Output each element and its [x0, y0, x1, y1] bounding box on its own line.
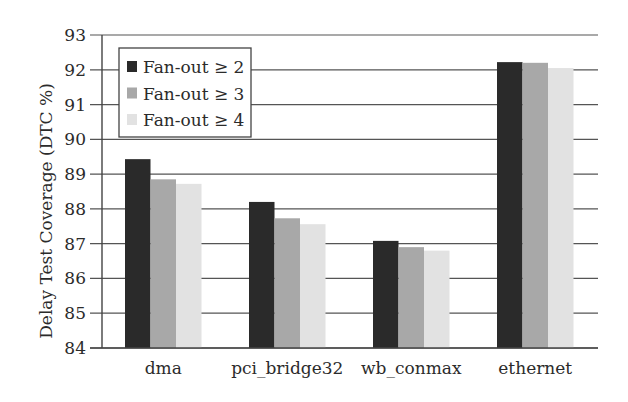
- bar: [300, 224, 326, 348]
- bar: [424, 251, 450, 348]
- bar: [249, 202, 275, 348]
- legend-label: Fan-out ≥ 3: [143, 84, 244, 104]
- y-tick-labels: 84858687888990919293: [64, 25, 86, 358]
- bar: [497, 62, 523, 348]
- bar: [176, 184, 202, 348]
- y-tick-label: 90: [64, 129, 86, 149]
- y-tick-label: 89: [64, 164, 86, 184]
- legend-label: Fan-out ≥ 4: [143, 110, 244, 130]
- legend: Fan-out ≥ 2Fan-out ≥ 3Fan-out ≥ 4: [119, 48, 251, 137]
- bar: [523, 63, 549, 348]
- x-category-label: ethernet: [498, 358, 572, 378]
- y-tick-label: 88: [64, 199, 86, 219]
- bar-chart: 84858687888990919293 dmapci_bridge32wb_c…: [0, 0, 628, 402]
- bar: [548, 68, 574, 348]
- x-category-label: pci_bridge32: [231, 358, 343, 378]
- legend-swatch: [127, 88, 137, 99]
- bar: [399, 247, 425, 348]
- y-tick-label: 93: [64, 25, 86, 45]
- legend-swatch: [127, 114, 137, 125]
- y-axis-label: Delay Test Coverage (DTC %): [36, 83, 56, 339]
- y-tick-label: 86: [64, 268, 86, 288]
- y-tick-label: 91: [64, 95, 86, 115]
- bar: [373, 241, 399, 348]
- x-category-label: dma: [145, 358, 182, 378]
- y-tick-label: 85: [64, 303, 86, 323]
- bar: [151, 179, 177, 348]
- y-tick-label: 92: [64, 60, 86, 80]
- bar: [125, 159, 151, 348]
- x-category-labels: dmapci_bridge32wb_conmaxethernet: [145, 358, 573, 378]
- y-tick-label: 87: [64, 234, 86, 254]
- legend-swatch: [127, 61, 137, 72]
- legend-label: Fan-out ≥ 2: [143, 57, 244, 77]
- bar: [275, 218, 301, 348]
- x-category-label: wb_conmax: [361, 358, 462, 378]
- y-tick-label: 84: [64, 338, 86, 358]
